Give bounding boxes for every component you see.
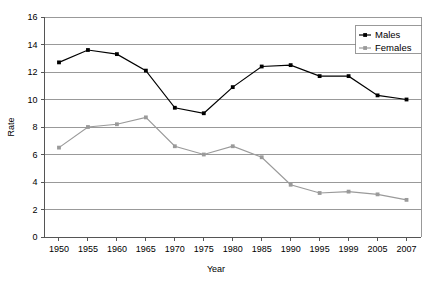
data-point-marker: [57, 60, 61, 64]
x-tick-label: 1955: [78, 244, 98, 254]
data-point-marker: [289, 63, 293, 67]
x-tick-label: 1970: [165, 244, 185, 254]
data-point-marker: [202, 153, 206, 157]
data-point-marker: [376, 93, 380, 97]
y-tick-label: 0: [32, 232, 37, 242]
legend-swatch-marker: [363, 33, 367, 37]
data-point-marker: [86, 48, 90, 52]
data-point-marker: [202, 111, 206, 115]
x-axis-title: Year: [207, 264, 225, 274]
data-point-marker: [347, 74, 351, 78]
x-tick-label: 1960: [107, 244, 127, 254]
legend: MalesFemales: [356, 26, 422, 54]
x-tick-label: 2007: [397, 244, 417, 254]
data-point-marker: [57, 146, 61, 150]
data-point-marker: [173, 106, 177, 110]
series-line-males: [59, 50, 407, 113]
data-point-marker: [405, 98, 409, 102]
data-point-marker: [231, 85, 235, 89]
chart-canvas: 0246810121416 19501955196019651970197519…: [0, 0, 434, 287]
y-tick-label: 8: [32, 122, 37, 132]
y-tick-label: 10: [27, 95, 37, 105]
y-tick-label: 6: [32, 150, 37, 160]
data-point-marker: [260, 65, 264, 69]
x-tick-label: 1980: [223, 244, 243, 254]
data-point-marker: [231, 144, 235, 148]
x-tick-label: 1999: [339, 244, 359, 254]
legend-label: Females: [375, 42, 412, 53]
y-tick-label: 2: [32, 205, 37, 215]
x-tick-label: 1975: [194, 244, 214, 254]
data-point-marker: [173, 144, 177, 148]
data-point-marker: [144, 115, 148, 119]
y-tick-label: 16: [27, 12, 37, 22]
data-point-marker: [405, 198, 409, 202]
x-tick-label: 1965: [136, 244, 156, 254]
data-point-marker: [144, 69, 148, 73]
y-axis-ticks-group: 0246810121416: [27, 12, 44, 242]
data-point-marker: [86, 125, 90, 129]
y-axis-title: Rate: [6, 117, 16, 136]
data-point-marker: [318, 74, 322, 78]
x-tick-label: 1995: [310, 244, 330, 254]
x-tick-label: 1950: [49, 244, 69, 254]
x-tick-label: 1985: [252, 244, 272, 254]
data-point-marker: [347, 190, 351, 194]
x-axis-ticks-group: 1950195519601965197019751980198519901995…: [49, 237, 417, 254]
y-tick-label: 14: [27, 40, 37, 50]
y-tick-label: 12: [27, 67, 37, 77]
x-tick-label: 1990: [281, 244, 301, 254]
legend-label: Males: [375, 29, 401, 40]
data-point-marker: [115, 52, 119, 56]
data-point-marker: [260, 155, 264, 159]
x-tick-label: 2005: [368, 244, 388, 254]
data-point-marker: [115, 122, 119, 126]
line-chart: 0246810121416 19501955196019651970197519…: [0, 0, 434, 287]
data-point-marker: [376, 192, 380, 196]
data-point-marker: [318, 191, 322, 195]
series-line-females: [59, 117, 407, 200]
y-tick-label: 4: [32, 177, 37, 187]
legend-swatch-marker: [363, 46, 367, 50]
series-group: [57, 48, 408, 202]
data-point-marker: [289, 183, 293, 187]
